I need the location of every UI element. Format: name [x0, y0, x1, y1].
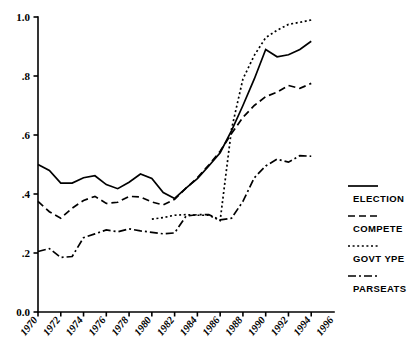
- y-tick-label: 1.0: [16, 11, 30, 23]
- legend-label-election: ELECTION: [353, 193, 404, 204]
- x-axis-tick-labels: 1970197219741976197819801982198419861988…: [18, 314, 336, 338]
- x-tick-label: 1976: [86, 314, 108, 338]
- line-chart: 0.0.2.4.6.81.0 1970197219741976197819801…: [0, 0, 413, 362]
- data-series-group: [38, 20, 311, 257]
- y-tick-label: .8: [22, 70, 31, 82]
- y-tick-label: .2: [22, 247, 31, 259]
- chart-plot-area: 0.0.2.4.6.81.0 1970197219741976197819801…: [0, 0, 413, 362]
- x-tick-label: 1982: [155, 314, 177, 338]
- legend-label-parseats: PARSEATS: [353, 283, 407, 294]
- series-line-election: [38, 41, 311, 198]
- x-tick-label: 1992: [268, 314, 290, 338]
- x-tick-label: 1972: [41, 314, 63, 338]
- x-tick-label: 1988: [223, 314, 245, 338]
- series-line-govtype: [152, 20, 311, 221]
- legend-label-compete: COMPETE: [353, 223, 403, 234]
- x-tick-label: 1996: [314, 314, 336, 338]
- x-tick-label: 1990: [246, 314, 268, 338]
- x-tick-label: 1978: [109, 314, 131, 338]
- legend-label-govt-ype: GOVT YPE: [353, 253, 405, 264]
- x-tick-label: 1986: [200, 314, 222, 338]
- y-tick-label: .6: [22, 129, 31, 141]
- x-tick-label: 1984: [177, 314, 199, 337]
- x-tick-label: 1994: [291, 314, 313, 337]
- y-tick-label: 0.0: [16, 306, 30, 318]
- y-axis-tick-labels: 0.0.2.4.6.81.0: [16, 11, 30, 318]
- chart-legend: ELECTIONCOMPETEGOVT YPEPARSEATS: [348, 186, 407, 294]
- y-axis: 0.0.2.4.6.81.0: [16, 11, 38, 318]
- x-tick-label: 1974: [64, 314, 86, 337]
- x-tick-label: 1980: [132, 314, 154, 338]
- x-axis: 1970197219741976197819801982198419861988…: [18, 312, 336, 338]
- y-tick-label: .4: [22, 188, 31, 200]
- series-line-parseats: [38, 156, 311, 258]
